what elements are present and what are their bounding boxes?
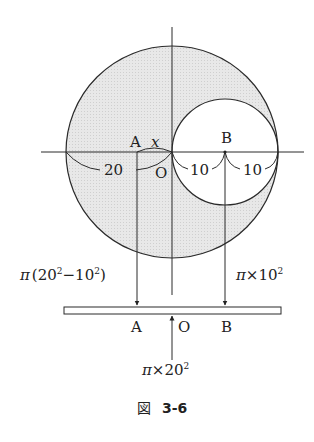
force-label-A: π(202−102) <box>19 266 106 284</box>
label-20: 20 <box>104 161 123 179</box>
beam <box>64 307 281 314</box>
brace-10-right-a <box>225 152 240 169</box>
beam-label-O: O <box>178 318 190 336</box>
label-O: O <box>155 164 167 182</box>
label-A: A <box>129 133 141 151</box>
figure-svg: A x B O 20 10 10 π(202−102) π×102 A O B … <box>0 0 314 442</box>
beam-label-A: A <box>130 318 142 336</box>
label-B: B <box>221 129 232 147</box>
force-label-B: π×102 <box>235 266 283 284</box>
caption-number: 3-6 <box>162 400 187 416</box>
force-label-O: π×202 <box>141 361 189 379</box>
brace-10-left-b <box>212 152 225 169</box>
beam-label-B: B <box>221 318 232 336</box>
label-10-right: 10 <box>243 161 262 179</box>
caption-prefix: 図 <box>137 400 151 416</box>
label-x: x <box>151 133 160 151</box>
label-10-left: 10 <box>190 161 209 179</box>
